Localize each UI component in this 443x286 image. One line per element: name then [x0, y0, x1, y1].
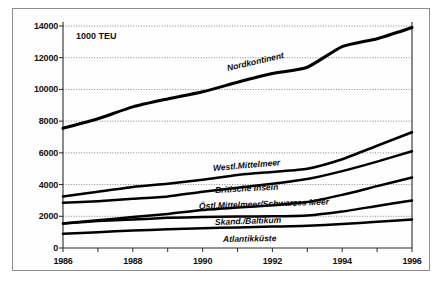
- y-axis-ticks-group: [59, 26, 63, 248]
- y-axis-tick-label: 2000: [14, 211, 58, 221]
- y-axis-tick-label: 12000: [14, 53, 58, 63]
- series-label-6: Atlantikküste: [223, 233, 277, 244]
- y-axis-tick-label: 6000: [14, 148, 58, 158]
- x-axis-tick-label: 1992: [263, 256, 282, 266]
- x-axis-tick-label: 1988: [123, 256, 142, 266]
- line-chart-canvas: [0, 0, 443, 286]
- x-axis-tick-label: 1994: [333, 256, 352, 266]
- series-line: [63, 151, 412, 203]
- chart-figure: 1000 TEU 0200040006000800010000120001400…: [0, 0, 443, 286]
- y-axis-tick-label: 14000: [14, 21, 58, 31]
- axes-group: [63, 22, 412, 248]
- x-axis-tick-label: 1986: [53, 256, 72, 266]
- y-axis-tick-label: 0: [14, 243, 58, 253]
- y-axis-tick-label: 4000: [14, 180, 58, 190]
- y-axis-tick-label: 10000: [14, 84, 58, 94]
- x-axis-tick-label: 1990: [193, 256, 212, 266]
- x-axis-tick-label: 1996: [402, 256, 421, 266]
- y-axis-tick-label: 8000: [14, 116, 58, 126]
- x-axis-ticks-group: [63, 248, 412, 252]
- unit-label: 1000 TEU: [76, 31, 117, 41]
- series-line: [63, 28, 412, 129]
